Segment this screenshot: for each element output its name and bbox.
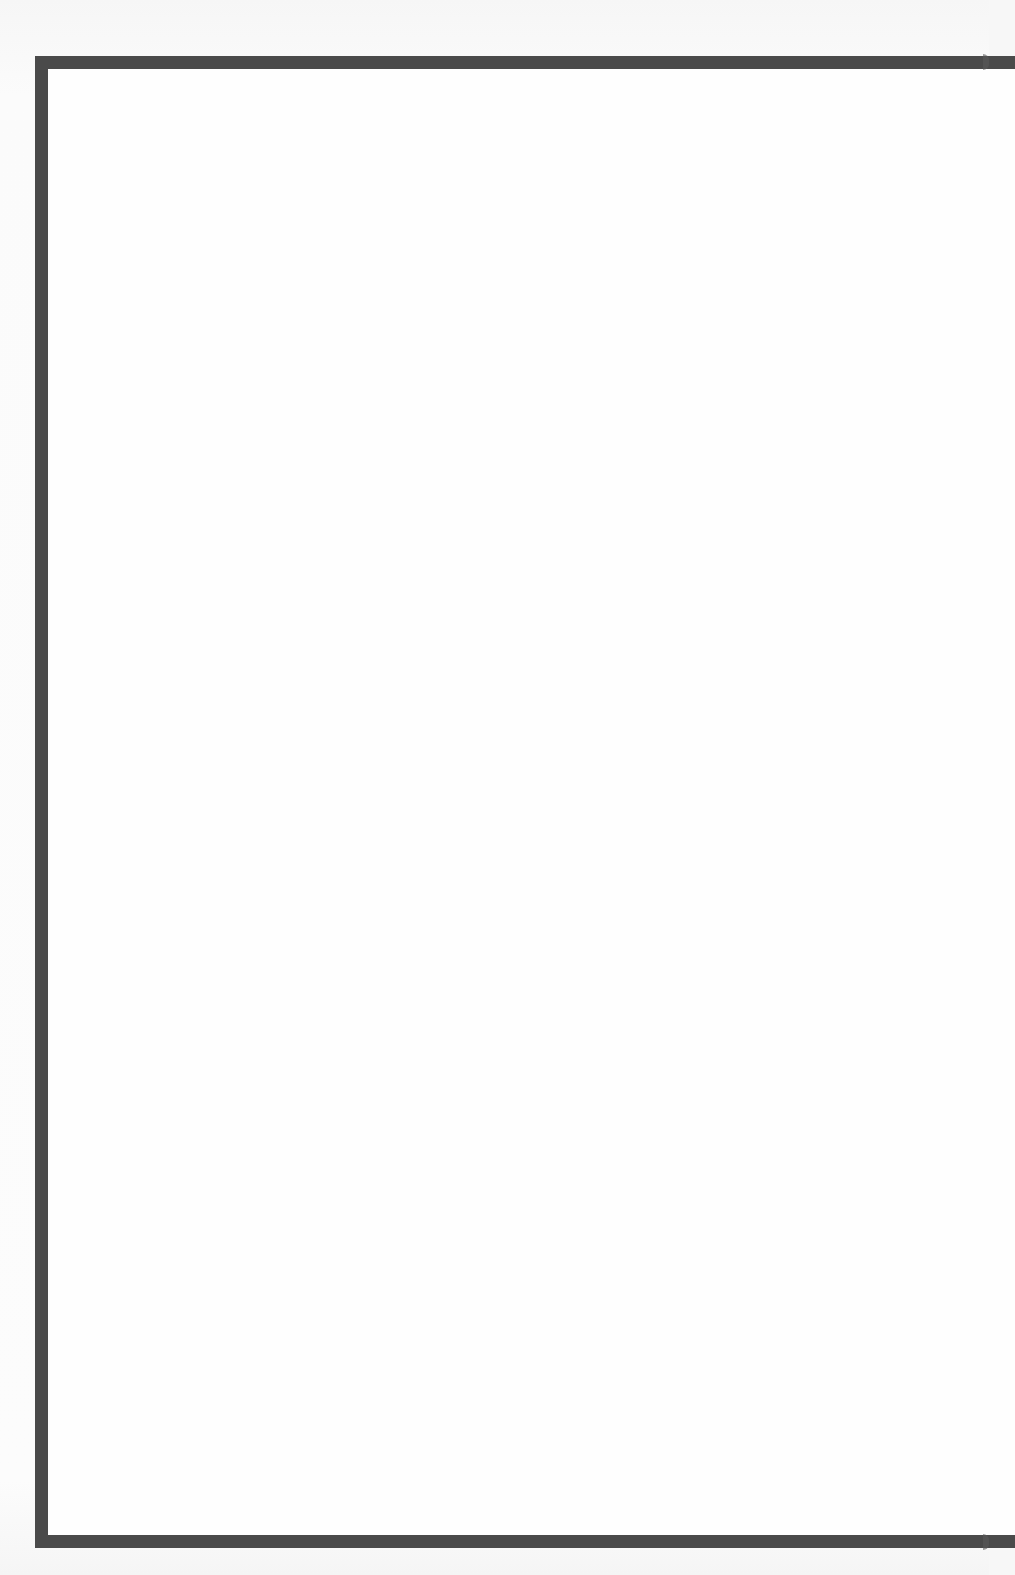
page-border-frame <box>35 56 1015 1548</box>
blank-page-area <box>48 69 1015 1535</box>
